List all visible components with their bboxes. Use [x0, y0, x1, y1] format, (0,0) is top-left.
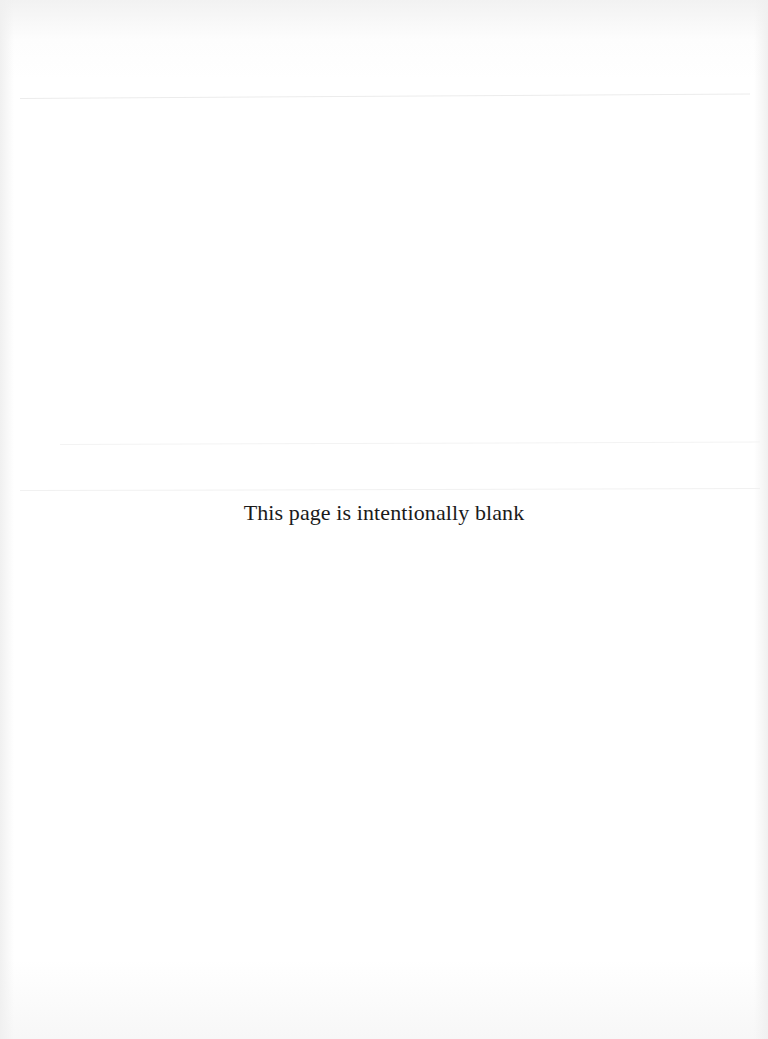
intentionally-blank-notice: This page is intentionally blank — [0, 500, 768, 526]
scan-artifact-line — [20, 94, 750, 99]
document-page: This page is intentionally blank — [0, 0, 768, 1039]
scan-artifact-line — [60, 442, 760, 445]
scan-artifact-line — [20, 488, 760, 491]
